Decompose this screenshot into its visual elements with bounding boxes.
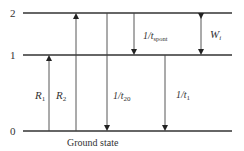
t20-label: 1/t20 [113,90,131,103]
r2-label: R2 [55,89,67,103]
level-1-label: 1 [10,49,16,61]
t1-label: 1/t1 [176,89,191,102]
energy-level-diagram: 2 1 0 R1 R2 1/t20 1/tspont 1/t1 Wi Groun… [0,0,244,151]
wi-label: Wi [210,28,221,42]
level-0-label: 0 [10,125,16,137]
tspont-label: 1/tspont [143,30,168,42]
level-2-label: 2 [10,7,16,19]
r1-label: R1 [34,89,46,103]
ground-state-label: Ground state [67,137,119,148]
